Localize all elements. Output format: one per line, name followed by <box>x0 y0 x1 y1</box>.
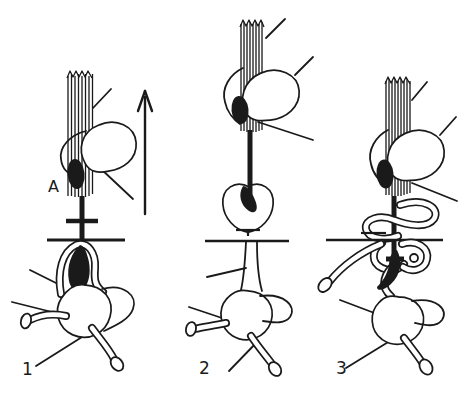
vessel-opening <box>410 254 418 262</box>
vein-stripping-diagram: A 1 <box>0 0 463 404</box>
side-branch-right <box>92 328 126 373</box>
side-branch-left <box>316 244 381 295</box>
ligature-loop <box>246 73 296 117</box>
vessel-line <box>30 270 58 284</box>
fascia-line <box>295 57 313 75</box>
side-branch-right <box>251 336 284 378</box>
fascia-line <box>100 168 133 199</box>
side-branch-left <box>185 321 226 337</box>
vessel-line <box>189 307 222 318</box>
vein-channel <box>241 242 262 291</box>
vessel-opening <box>185 321 198 337</box>
vein-loop <box>61 288 108 334</box>
stage-2-label: 2 <box>199 358 210 378</box>
thrombus-nodule <box>66 158 86 190</box>
stage-3-label: 3 <box>336 358 347 378</box>
ligature-loop <box>84 125 133 168</box>
stage-1-label: 1 <box>22 359 33 379</box>
vessel-line <box>340 300 377 314</box>
fascia-line <box>412 82 427 100</box>
vein-loop <box>375 299 420 341</box>
fascia-line <box>258 122 313 140</box>
fascia-line <box>93 89 111 108</box>
stage-2-panel: 2 <box>185 19 313 378</box>
side-branch-right <box>404 338 435 377</box>
fascia-line <box>440 117 456 135</box>
fascia-line <box>266 19 285 38</box>
vein-loop <box>224 294 269 337</box>
ligature-loop <box>391 133 441 177</box>
annotation-a-label: A <box>48 177 59 196</box>
stage-3-panel: 3 <box>316 77 457 378</box>
vessel-line <box>207 268 246 277</box>
stage-1-panel: A 1 <box>12 71 134 379</box>
up-arrow-icon <box>138 91 152 214</box>
vessel-opening <box>19 313 32 330</box>
figure-canvas: A 1 <box>0 0 463 404</box>
